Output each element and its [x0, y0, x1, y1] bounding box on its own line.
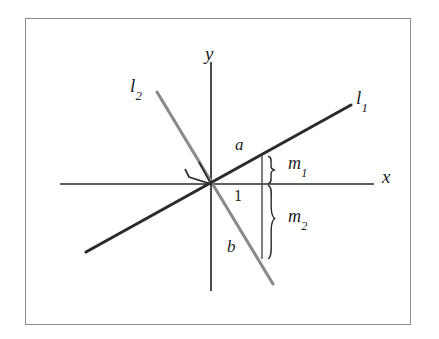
brace-m2 [269, 186, 275, 259]
line-label-l1-base: l [356, 87, 361, 108]
point-label-a: a [235, 136, 244, 153]
slope-label-m1: m1 [288, 154, 307, 176]
slope-label-m1-subscript: 1 [301, 166, 307, 180]
x-axis-label: x [382, 167, 390, 186]
line-label-l1-subscript: 1 [362, 100, 368, 115]
y-axis-label: y [205, 44, 213, 63]
figure-root: y x l1 l2 a b 1 m1 m2 [0, 0, 439, 339]
slope-label-m2: m2 [288, 207, 307, 229]
line-label-l2-subscript: 2 [136, 88, 142, 103]
slope-label-m2-base: m [288, 206, 301, 226]
slope-label-m2-subscript: 2 [301, 219, 307, 233]
slope-label-m1-base: m [288, 153, 301, 173]
point-label-b: b [227, 238, 236, 255]
line-label-l1: l1 [356, 88, 368, 112]
line-l1 [86, 105, 351, 252]
geometry-canvas [0, 0, 439, 339]
unit-length-label: 1 [234, 188, 242, 204]
line-l2 [157, 92, 273, 284]
brace-m1 [269, 157, 275, 184]
line-label-l2-base: l [130, 75, 135, 96]
line-label-l2: l2 [130, 76, 142, 100]
